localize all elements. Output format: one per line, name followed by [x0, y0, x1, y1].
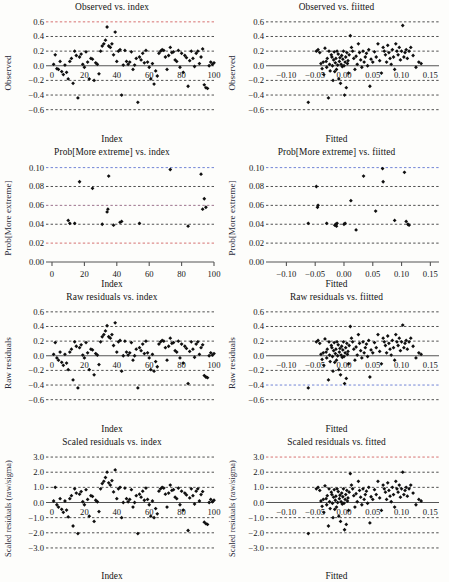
data-point	[344, 493, 348, 497]
data-point	[168, 336, 172, 340]
data-point	[405, 494, 409, 498]
data-point	[390, 485, 394, 489]
data-point	[381, 483, 385, 487]
data-point	[131, 68, 135, 72]
panel-title: Scaled residuals vs. index	[0, 437, 224, 447]
data-point	[66, 368, 70, 372]
data-point	[318, 341, 322, 345]
data-point	[167, 54, 171, 58]
panel-title: Scaled residuals vs. fitted	[224, 437, 449, 447]
data-point	[146, 498, 150, 502]
y-tick-label: −3.0	[248, 543, 264, 553]
x-axis-label: Fitted	[224, 571, 449, 581]
data-point	[106, 207, 110, 211]
y-tick-label: 0.00	[29, 257, 44, 267]
data-point	[120, 369, 124, 373]
data-point	[405, 57, 409, 61]
data-point	[327, 340, 331, 344]
data-point	[155, 74, 159, 78]
panel-title: Raw residuals vs. index	[0, 292, 224, 302]
x-tick-label: 80	[177, 507, 186, 517]
x-tick-label: −0.05	[305, 269, 325, 279]
y-tick-label: 0.4	[33, 321, 44, 331]
data-point	[84, 488, 88, 492]
data-point	[374, 493, 378, 497]
data-point	[342, 49, 346, 53]
data-point	[353, 358, 357, 362]
data-point	[164, 492, 168, 496]
data-point	[73, 221, 77, 225]
data-point	[323, 337, 327, 341]
data-point	[60, 507, 64, 511]
panel-title: Prob[More extreme] vs. fiitted	[224, 147, 449, 157]
data-point	[189, 49, 193, 53]
data-point	[351, 49, 355, 53]
data-point	[358, 488, 362, 492]
plot-area: −0.6−0.4−0.20.00.20.40.6−0.10−0.050.000.…	[224, 0, 449, 145]
data-point	[58, 350, 62, 354]
plot-area: −3.0−2.0−1.00.01.02.03.0−0.10−0.050.000.…	[224, 435, 449, 582]
data-point	[401, 470, 405, 474]
data-point	[314, 185, 318, 189]
data-point	[411, 54, 415, 58]
data-point	[165, 505, 169, 509]
data-point	[134, 347, 138, 351]
data-point	[154, 360, 158, 364]
y-tick-label: 2.0	[253, 467, 264, 477]
y-tick-label: 0.04	[29, 219, 45, 229]
x-tick-label: −0.10	[276, 70, 296, 80]
data-point	[353, 505, 357, 509]
data-point	[362, 60, 366, 64]
data-point	[411, 491, 415, 495]
data-point	[397, 483, 401, 487]
data-point	[359, 495, 363, 499]
data-point	[394, 479, 398, 483]
data-point	[366, 501, 370, 505]
data-point	[199, 172, 203, 176]
data-point	[131, 505, 135, 509]
panel-title: Prob[More extreme] vs. index	[0, 147, 224, 157]
x-tick-label: 20	[80, 507, 89, 517]
x-axis-label: Index	[0, 134, 224, 144]
data-point	[384, 344, 388, 348]
y-tick-label: −0.6	[248, 395, 264, 405]
data-point	[403, 170, 407, 174]
data-point	[167, 344, 171, 348]
diagnostic-plot-grid: Observed vs. indexObservedIndex−0.6−0.4−…	[0, 0, 449, 582]
data-point	[327, 49, 331, 53]
x-tick-label: 100	[208, 269, 221, 279]
data-point	[358, 341, 362, 345]
data-point	[365, 51, 369, 55]
data-point	[81, 500, 85, 504]
data-point	[363, 493, 367, 497]
data-point	[71, 81, 75, 85]
data-point	[388, 57, 392, 61]
data-point	[165, 358, 169, 362]
data-point-series	[306, 167, 411, 232]
data-point	[115, 59, 119, 63]
x-axis-label: Fitted	[224, 279, 449, 289]
data-point	[78, 180, 82, 184]
data-point	[155, 512, 159, 516]
data-point	[385, 60, 389, 64]
data-point	[366, 355, 370, 359]
y-tick-label: −0.4	[248, 90, 264, 100]
data-point	[378, 349, 382, 353]
y-tick-label: 0.10	[29, 163, 44, 173]
y-tick-label: 0.6	[33, 307, 44, 317]
y-tick-label: −2.0	[28, 528, 44, 538]
data-point	[342, 340, 346, 344]
data-point	[344, 377, 348, 381]
x-tick-label: 0.10	[394, 269, 409, 279]
x-tick-label: 60	[145, 360, 154, 370]
data-point	[186, 224, 190, 228]
data-point	[144, 486, 148, 490]
x-tick-label: 0	[50, 507, 54, 517]
panel-prob-more-extreme-vs-fitted: Prob[More extreme] vs. fiittedProb[More …	[224, 145, 449, 290]
data-point	[327, 378, 331, 382]
data-point-series	[306, 323, 423, 390]
y-axis-label-text: Scaled residuals (raw/sigma)	[4, 460, 13, 557]
x-tick-label: 40	[113, 70, 122, 80]
data-point	[123, 48, 127, 52]
data-point	[376, 333, 380, 337]
